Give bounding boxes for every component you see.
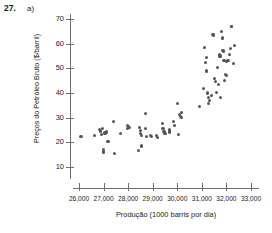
scatter-point [229, 47, 232, 50]
x-axis-title: Produção (1000 barris por dia) [60, 210, 272, 219]
scatter-point [163, 132, 166, 135]
scatter-point [106, 140, 109, 143]
y-axis-title: Preços do Petróleo Bruto ($/barril) [32, 24, 41, 154]
scatter-point [112, 120, 115, 123]
scatter-point [222, 50, 225, 53]
scatter-point [79, 135, 82, 138]
x-axis-line [73, 188, 259, 189]
x-tick [128, 183, 129, 191]
scatter-point [219, 96, 222, 99]
scatter-point [217, 83, 220, 86]
scatter-point [208, 99, 211, 102]
scatter-point [150, 135, 153, 138]
scatter-point [223, 79, 226, 82]
y-tick-label: 30 [40, 114, 64, 122]
scatter-point [205, 69, 208, 72]
scatter-point [176, 102, 179, 105]
scatter-point [119, 132, 122, 135]
scatter-point [210, 94, 213, 97]
problem-number: 27. [4, 3, 16, 13]
figure-container: 27. a) 10203040506070 26,00027,00028,000… [0, 0, 272, 233]
x-tick [226, 183, 227, 191]
scatter-point [232, 62, 235, 65]
problem-part: a) [27, 4, 34, 13]
scatter-point [161, 122, 164, 125]
scatter-point [156, 136, 159, 139]
y-tick [66, 167, 74, 168]
scatter-point [204, 61, 207, 64]
scatter-point [140, 134, 143, 137]
x-tick [104, 183, 105, 191]
x-tick [79, 183, 80, 191]
y-tick-label: 20 [40, 138, 64, 146]
x-tick [177, 183, 178, 191]
scatter-point [218, 54, 221, 57]
scatter-point [205, 56, 208, 59]
y-tick-label: 10 [40, 163, 64, 171]
y-tick-label: 50 [40, 64, 64, 72]
scatter-point [100, 133, 103, 136]
scatter-point [203, 46, 206, 49]
scatter-point [213, 77, 216, 80]
x-tick-label: 33,000 [234, 195, 268, 203]
y-tick-label-text: 20 [42, 138, 64, 146]
scatter-point [225, 74, 228, 77]
scatter-point [105, 130, 108, 133]
scatter-point [220, 30, 223, 33]
scatter-point [180, 116, 183, 119]
scatter-point [207, 102, 210, 105]
scatter-point [227, 59, 230, 62]
scatter-point [144, 112, 147, 115]
y-tick-label-text: 70 [42, 15, 64, 23]
y-tick-label: 40 [40, 89, 64, 97]
scatter-point [215, 91, 218, 94]
scatter-point [93, 134, 96, 137]
y-tick-label-text: 60 [42, 40, 64, 48]
y-tick-label-text: 10 [42, 163, 64, 171]
scatter-point [202, 87, 205, 90]
scatter-point [228, 53, 231, 56]
scatter-point [233, 44, 236, 47]
scatter-point [212, 33, 215, 36]
scatter-point [180, 111, 183, 114]
scatter-point [177, 133, 180, 136]
y-tick-label: 70 [40, 15, 64, 23]
y-tick-label-text: 30 [42, 114, 64, 122]
scatter-plot-area [70, 19, 252, 167]
scatter-point [145, 135, 148, 138]
scatter-point [221, 36, 224, 39]
scatter-point [140, 144, 143, 147]
scatter-point [102, 151, 105, 154]
scatter-point [101, 127, 104, 130]
x-tick [251, 183, 252, 191]
x-tick [202, 183, 203, 191]
y-tick-label-text: 40 [42, 89, 64, 97]
scatter-point [128, 126, 131, 129]
y-tick-label: 60 [40, 40, 64, 48]
scatter-point [198, 105, 201, 108]
scatter-point [230, 25, 233, 28]
scatter-point [113, 152, 116, 155]
scatter-point [144, 127, 147, 130]
scatter-point [206, 91, 209, 94]
scatter-point [137, 149, 140, 152]
scatter-point [173, 124, 176, 127]
scatter-point [216, 66, 219, 69]
scatter-point [172, 120, 175, 123]
y-tick-label-text: 50 [42, 64, 64, 72]
x-tick [153, 183, 154, 191]
scatter-point [168, 130, 171, 133]
